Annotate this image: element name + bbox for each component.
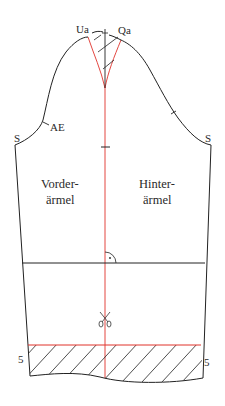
label-back-sleeve-2: ärmel [143, 193, 172, 207]
label-s-left: S [14, 132, 20, 144]
ae-notch [43, 122, 49, 125]
sleeve-cap-outline [15, 31, 211, 145]
right-angle-dot [109, 257, 111, 259]
label-back-sleeve-1: Hinter- [139, 177, 175, 191]
label-hem-left: 5 [18, 353, 24, 365]
label-s-right: S [205, 132, 211, 144]
label-front-sleeve-2: ärmel [46, 193, 75, 207]
hem-edge [30, 373, 203, 382]
right-underarm-seam [203, 145, 211, 378]
cap-hatch-1 [94, 35, 101, 40]
sleeve-pattern-diagram: Ua Qa AE S S Vorder- ärmel Hinter- ärmel… [0, 0, 225, 406]
hem-allowance-hatching [0, 330, 225, 395]
cap-dart-right [105, 40, 121, 88]
label-front-sleeve-1: Vorder- [41, 177, 79, 191]
cap-hatch-2 [98, 37, 118, 52]
label-ae: AE [50, 121, 65, 133]
label-qa: Qa [118, 24, 131, 36]
label-hem-right: 5 [204, 356, 210, 368]
cap-dart-left [88, 37, 105, 88]
left-underarm-seam [15, 145, 30, 376]
label-ua: Ua [76, 23, 89, 35]
